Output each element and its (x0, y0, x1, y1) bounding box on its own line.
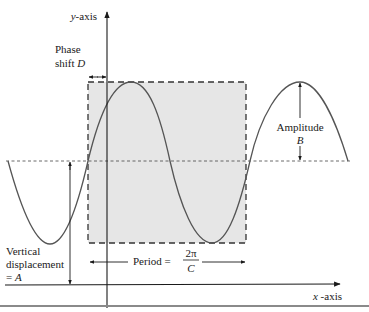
sine-transformation-diagram: y-axis x -axis Phase shift D Amplitude B… (0, 0, 369, 312)
x-axis (5, 284, 340, 285)
vertical-displacement-line3: = A (6, 271, 22, 283)
phase-shift-label-line2: shift D (55, 57, 85, 69)
bottom-divider (0, 305, 369, 307)
vertical-displacement-line1: Vertical (6, 245, 40, 257)
phase-shift-label-line1: Phase (55, 43, 81, 55)
period-denominator: C (187, 262, 195, 274)
amplitude-label: Amplitude (276, 121, 323, 133)
amplitude-var: B (297, 134, 304, 146)
period-numerator: 2π (185, 247, 197, 259)
vertical-displacement-line2: displacement (6, 258, 64, 270)
period-box (88, 82, 246, 243)
period-label: Period = (133, 255, 171, 267)
y-axis-label: y-axis (70, 10, 97, 22)
x-axis-label: x -axis (312, 290, 342, 302)
